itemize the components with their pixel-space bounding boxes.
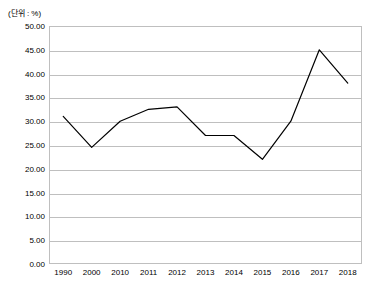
y-tick-label: 15.00 (25, 188, 45, 197)
x-tick-label: 2015 (254, 268, 272, 277)
line-chart: (단위 : %) 0.005.0010.0015.0020.0025.0030.… (0, 0, 370, 302)
y-tick-label: 10.00 (25, 212, 45, 221)
x-tick-label: 2016 (282, 268, 300, 277)
x-tick-label: 2017 (310, 268, 328, 277)
x-tick-label: 2014 (225, 268, 243, 277)
x-axis-tick-labels: 1990200020102011201220132014201520162017… (0, 268, 370, 282)
y-tick-label: 50.00 (25, 22, 45, 31)
y-tick-label: 25.00 (25, 141, 45, 150)
x-tick-label: 1990 (54, 268, 72, 277)
y-axis-tick-labels: 0.005.0010.0015.0020.0025.0030.0035.0040… (0, 0, 45, 302)
y-tick-label: 5.00 (29, 236, 45, 245)
x-tick-label: 2018 (339, 268, 357, 277)
x-tick-label: 2011 (140, 268, 157, 277)
series-line (63, 50, 348, 159)
y-tick-label: 35.00 (25, 93, 45, 102)
y-tick-label: 20.00 (25, 164, 45, 173)
y-tick-label: 40.00 (25, 69, 45, 78)
x-tick-label: 2000 (83, 268, 101, 277)
x-tick-label: 2013 (197, 268, 215, 277)
x-tick-label: 2012 (168, 268, 186, 277)
y-tick-label: 30.00 (25, 117, 45, 126)
x-tick-label: 2010 (111, 268, 129, 277)
y-tick-label: 45.00 (25, 45, 45, 54)
series-line-layer (49, 26, 362, 264)
